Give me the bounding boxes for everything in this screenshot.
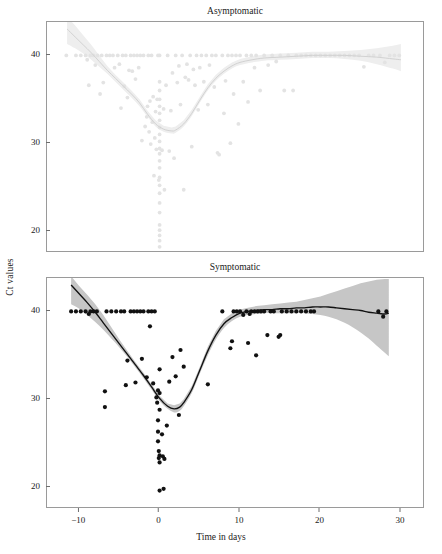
panel-symptomatic: Symptomatic 203040 −100102030 — [46, 277, 424, 508]
panel-title-symptomatic: Symptomatic — [46, 262, 424, 272]
scatter-plot-symptomatic — [47, 278, 424, 508]
x-tick--10: −10 — [71, 508, 85, 525]
y-axis-label-text: Ct values — [5, 258, 15, 295]
x-tick-20: 20 — [315, 508, 324, 525]
y-tick-30: 30 — [31, 137, 46, 147]
plot-area-asymptomatic — [46, 21, 424, 252]
x-axis-label: Time in days — [0, 532, 442, 542]
x-axis-label-text: Time in days — [196, 532, 245, 542]
y-tick-20: 20 — [31, 225, 46, 235]
plot-area-symptomatic — [46, 277, 424, 508]
y-tick-40: 40 — [31, 305, 46, 315]
x-tick-30: 30 — [395, 508, 404, 525]
y-axis-label: Ct values — [2, 0, 18, 554]
x-tick-0: 0 — [156, 508, 161, 525]
scatter-plot-asymptomatic — [47, 22, 424, 252]
panel-title-asymptomatic: Asymptomatic — [46, 6, 424, 16]
panel-asymptomatic: Asymptomatic 203040 — [46, 21, 424, 252]
y-tick-40: 40 — [31, 49, 46, 59]
y-tick-30: 30 — [31, 393, 46, 403]
y-tick-20: 20 — [31, 481, 46, 491]
figure: Ct values Asymptomatic 203040 Symptomati… — [0, 0, 442, 554]
x-tick-10: 10 — [235, 508, 244, 525]
